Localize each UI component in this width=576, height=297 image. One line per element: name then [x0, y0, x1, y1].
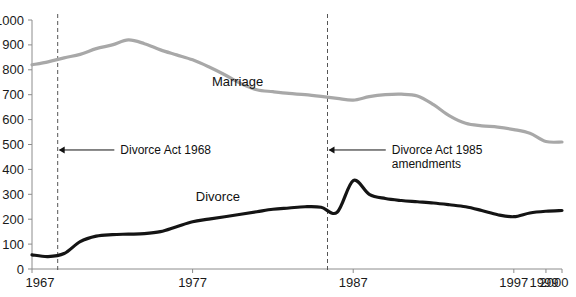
marriage-divorce-line-chart: 01002003004005006007008009001000 1967197… [0, 0, 576, 297]
y-tick-label: 600 [2, 112, 24, 127]
x-tick-label: 2000 [540, 275, 569, 290]
series-label-marriage: Marriage [212, 74, 263, 89]
chart-annotations: Divorce Act 1968Divorce Act 1985amendmen… [59, 143, 483, 171]
x-tick-label: 1967 [26, 275, 55, 290]
series-label-divorce: Divorce [196, 189, 240, 204]
annotation-arrow-head [59, 147, 65, 154]
annotation-text-line: Divorce Act 1985 [392, 143, 483, 157]
series-lines [32, 40, 562, 257]
x-axis: 196719771987199719992000 [26, 269, 569, 290]
y-tick-label: 100 [2, 237, 24, 252]
annotation-text-line: amendments [392, 157, 461, 171]
chart-canvas: 01002003004005006007008009001000 1967197… [0, 0, 576, 297]
y-tick-label: 400 [2, 162, 24, 177]
y-tick-label: 800 [2, 62, 24, 77]
annotation-text-line: Divorce Act 1968 [120, 143, 211, 157]
x-tick-label: 1997 [499, 275, 528, 290]
y-tick-label: 700 [2, 87, 24, 102]
annotation-divorce-act-1985: Divorce Act 1985amendments [329, 143, 483, 171]
annotation-divorce-act-1968: Divorce Act 1968 [59, 143, 212, 157]
series-inline-labels: MarriageDivorce [196, 74, 263, 204]
y-tick-label: 900 [2, 37, 24, 52]
x-tick-label: 1987 [339, 275, 368, 290]
y-tick-label: 1000 [0, 13, 24, 28]
y-tick-label: 500 [2, 137, 24, 152]
annotation-arrow-head [329, 147, 335, 154]
x-tick-label: 1977 [178, 275, 207, 290]
y-tick-label: 200 [2, 212, 24, 227]
series-line-divorce [32, 180, 562, 256]
y-tick-label: 300 [2, 187, 24, 202]
y-tick-label: 0 [17, 262, 24, 277]
series-line-marriage [32, 40, 562, 142]
y-axis: 01002003004005006007008009001000 [0, 13, 32, 277]
